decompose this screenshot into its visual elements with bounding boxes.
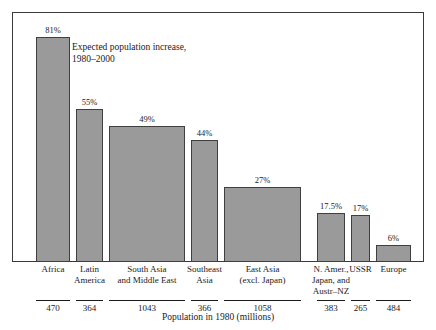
bar-ussr	[351, 215, 370, 262]
population-rule	[76, 300, 103, 301]
bar-value-label: 27%	[224, 175, 301, 185]
bar-value-label: 17%	[351, 203, 370, 213]
category-label-line: Europe	[362, 264, 425, 275]
population-rule	[109, 300, 185, 301]
annotation-line-2: 1980–2000	[72, 54, 232, 66]
bar-n-amer-japan-and-austr-nz	[317, 213, 345, 262]
bar-value-label: 49%	[109, 114, 185, 124]
bar-value-label: 81%	[36, 25, 70, 35]
bar-value-label: 6%	[376, 233, 411, 243]
annotation-line-1: Expected population increase,	[72, 42, 232, 54]
category-label: East Asia(excl. Japan)	[210, 264, 315, 286]
bar-east-asia-excl-japan	[224, 187, 301, 262]
category-label-line: (excl. Japan)	[210, 275, 315, 286]
population-rule	[376, 300, 411, 301]
bar-value-label: 55%	[76, 97, 103, 107]
population-rule	[351, 300, 370, 301]
category-label-line: Japan, and	[303, 275, 359, 286]
bar-southeast-asia	[191, 140, 218, 262]
bar-europe	[376, 245, 411, 262]
population-rule	[191, 300, 218, 301]
x-axis-caption: Population in 1980 (millions)	[0, 312, 436, 322]
category-label: Europe	[362, 264, 425, 275]
bar-latin-america	[76, 109, 103, 262]
category-label-line: East Asia	[210, 264, 315, 275]
figure: 81%55%49%44%27%17.5%17%6% Expected popul…	[0, 0, 436, 330]
population-rule	[36, 300, 70, 301]
bar-africa	[36, 37, 70, 262]
population-rule	[317, 300, 345, 301]
bar-south-asia-and-middle-east	[109, 126, 185, 262]
bar-value-label: 17.5%	[317, 201, 345, 211]
population-rule	[224, 300, 301, 301]
bar-value-label: 44%	[191, 128, 218, 138]
category-label-line: Austr–NZ	[303, 286, 359, 297]
chart-annotation: Expected population increase, 1980–2000	[72, 42, 232, 65]
